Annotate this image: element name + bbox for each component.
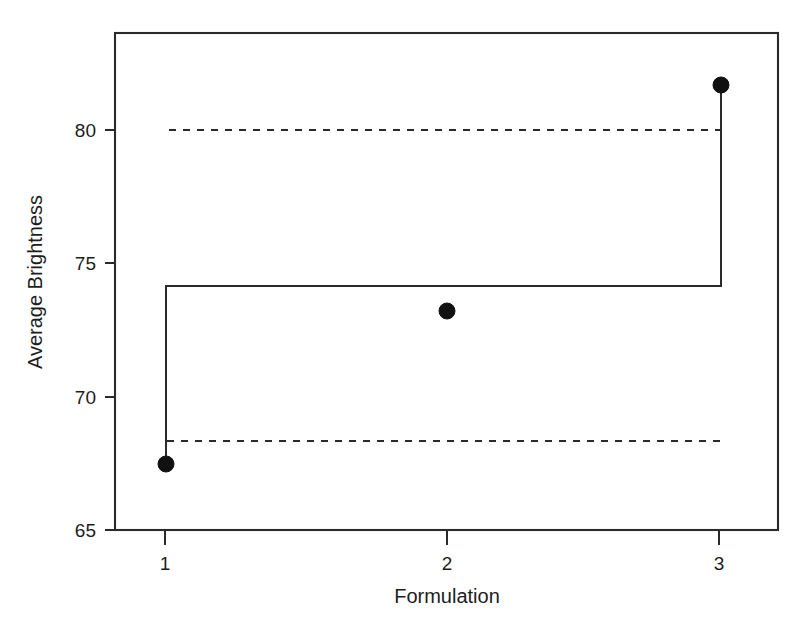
x-axis-title: Formulation: [394, 585, 500, 607]
x-axis-tick-labels: 1 2 3: [160, 553, 725, 574]
y-axis-ticks: [105, 130, 115, 530]
data-point-1: [158, 456, 174, 472]
data-points: [158, 77, 729, 472]
x-tick-label-1: 1: [160, 553, 171, 574]
y-tick-label-70: 70: [75, 387, 96, 408]
y-axis-title: Average Brightness: [24, 195, 46, 369]
x-tick-label-3: 3: [714, 553, 725, 574]
analysis-of-means-chart: 80 75 70 65 Average Brightness 1 2 3 For…: [0, 0, 810, 627]
chart-figure: 80 75 70 65 Average Brightness 1 2 3 For…: [0, 0, 810, 627]
x-axis-ticks: [165, 530, 719, 545]
step-interval-line: [166, 85, 721, 464]
y-axis-tick-labels: 80 75 70 65: [75, 120, 96, 541]
y-tick-label-80: 80: [75, 120, 96, 141]
data-point-2: [439, 303, 455, 319]
x-tick-label-2: 2: [442, 553, 453, 574]
y-tick-label-75: 75: [75, 253, 96, 274]
plot-frame: [115, 33, 778, 530]
y-tick-label-65: 65: [75, 520, 96, 541]
data-point-3: [713, 77, 729, 93]
